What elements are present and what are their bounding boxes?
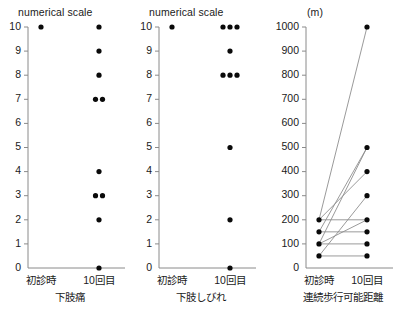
data-point xyxy=(96,217,101,222)
data-point xyxy=(364,229,369,234)
y-tick-label: 1 xyxy=(15,237,21,249)
data-point xyxy=(227,49,232,54)
y-tick-label: 500 xyxy=(281,140,299,152)
scatter-plot-lower-limb-pain: 012345678910初診時10回目下肢痛 xyxy=(0,0,131,319)
y-tick-label: 9 xyxy=(146,44,152,56)
y-tick-label: 100 xyxy=(281,237,299,249)
data-point xyxy=(364,253,369,258)
y-tick-label: 8 xyxy=(15,68,21,80)
y-tick-label: 2 xyxy=(15,213,21,225)
y-tick-label: 10 xyxy=(9,20,21,32)
data-point xyxy=(96,169,101,174)
data-point xyxy=(169,24,174,29)
y-tick-label: 9 xyxy=(15,44,21,56)
data-point xyxy=(364,24,369,29)
line-plot-walking-distance: 01002003004005006007008009001000初診時10回目連… xyxy=(262,0,393,319)
x-tick-label: 10回目 xyxy=(83,274,115,286)
scatter-plot-lower-limb-numbness: 012345678910初診時10回目下肢しびれ xyxy=(131,0,262,319)
data-point xyxy=(316,241,321,246)
data-point xyxy=(364,169,369,174)
data-point xyxy=(227,265,232,270)
y-tick-label: 900 xyxy=(281,44,299,56)
y-tick-label: 400 xyxy=(281,164,299,176)
y-tick-label: 4 xyxy=(146,164,152,176)
y-tick-label: 5 xyxy=(15,140,21,152)
y-tick-label: 1000 xyxy=(276,20,300,32)
data-point xyxy=(96,24,101,29)
x-tick-label: 初診時 xyxy=(26,274,57,286)
data-point xyxy=(364,217,369,222)
data-point xyxy=(96,73,101,78)
panel-lower-limb-pain: numerical scale 012345678910初診時10回目下肢痛 xyxy=(0,0,131,319)
data-point xyxy=(227,73,232,78)
y-tick-label: 1 xyxy=(146,237,152,249)
y-tick-label: 10 xyxy=(140,20,152,32)
x-tick-label: 初診時 xyxy=(304,274,335,286)
data-point xyxy=(220,73,225,78)
data-point xyxy=(227,217,232,222)
x-tick-label: 10回目 xyxy=(351,274,383,286)
data-point xyxy=(316,217,321,222)
figure-panel-group: numerical scale 012345678910初診時10回目下肢痛 n… xyxy=(0,0,393,319)
y-tick-label: 0 xyxy=(293,261,299,273)
x-tick-label: 初診時 xyxy=(157,274,188,286)
y-tick-label: 6 xyxy=(15,116,21,128)
data-point xyxy=(100,97,105,102)
data-point xyxy=(316,229,321,234)
data-point xyxy=(234,24,239,29)
panel-caption: 連続歩行可能距離 xyxy=(303,291,384,303)
y-tick-label: 3 xyxy=(15,188,21,200)
data-point xyxy=(220,24,225,29)
panel-lower-limb-numbness: numerical scale 012345678910初診時10回目下肢しびれ xyxy=(131,0,262,319)
y-tick-label: 2 xyxy=(146,213,152,225)
data-point xyxy=(93,193,98,198)
y-tick-label: 0 xyxy=(15,261,21,273)
y-tick-label: 600 xyxy=(281,116,299,128)
data-point xyxy=(364,241,369,246)
data-point xyxy=(227,24,232,29)
y-tick-label: 8 xyxy=(146,68,152,80)
y-tick-label: 800 xyxy=(281,68,299,80)
panel-caption: 下肢痛 xyxy=(55,291,85,303)
y-tick-label: 7 xyxy=(15,92,21,104)
y-tick-label: 3 xyxy=(146,188,152,200)
y-tick-label: 4 xyxy=(15,164,21,176)
data-point xyxy=(93,97,98,102)
data-point xyxy=(227,145,232,150)
y-tick-label: 700 xyxy=(281,92,299,104)
panel-caption: 下肢しびれ xyxy=(176,291,227,303)
data-point xyxy=(96,265,101,270)
data-point xyxy=(96,49,101,54)
data-point xyxy=(364,145,369,150)
x-tick-label: 10回目 xyxy=(214,274,246,286)
y-tick-label: 5 xyxy=(146,140,152,152)
data-point xyxy=(364,193,369,198)
panel-walking-distance: (m) 01002003004005006007008009001000初診時1… xyxy=(262,0,393,319)
data-point xyxy=(38,24,43,29)
y-tick-label: 0 xyxy=(146,261,152,273)
y-tick-label: 200 xyxy=(281,213,299,225)
y-tick-label: 7 xyxy=(146,92,152,104)
data-point xyxy=(234,73,239,78)
y-tick-label: 300 xyxy=(281,188,299,200)
data-point xyxy=(100,193,105,198)
y-tick-label: 6 xyxy=(146,116,152,128)
data-point xyxy=(316,253,321,258)
